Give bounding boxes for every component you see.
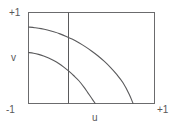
upper-curve (29, 27, 134, 103)
y-axis-max-tick-label: +1 (9, 8, 20, 18)
x-axis-max-tick-label: +1 (157, 105, 168, 115)
plot-canvas (0, 0, 179, 129)
y-axis-label: v (11, 53, 16, 63)
uv-plot-figure: +1 -1 +1 v u (0, 0, 179, 129)
lower-curve (29, 53, 96, 104)
x-axis-label: u (92, 113, 98, 123)
y-axis-min-tick-label: -1 (6, 105, 15, 115)
